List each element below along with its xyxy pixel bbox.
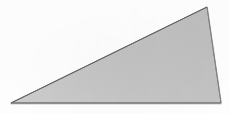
figure-canvas [0, 0, 229, 114]
triangle-shape [11, 7, 221, 103]
triangle-figure-svg [0, 0, 229, 114]
